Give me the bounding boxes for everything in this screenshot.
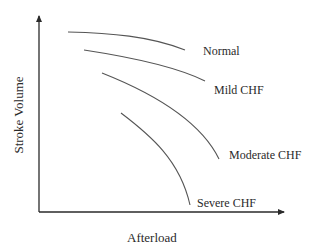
curve-severe-chf [121,113,190,205]
x-axis-label: Afterload [127,230,177,246]
label-severe-chf: Severe CHF [197,196,256,211]
curve-normal [68,32,185,50]
chart-canvas [0,0,316,250]
label-normal: Normal [203,44,240,59]
label-mild-chf: Mild CHF [214,83,264,98]
label-moderate-chf: Moderate CHF [229,148,301,163]
curve-mild-chf [84,50,205,81]
y-axis-label: Stroke Volume [11,70,27,160]
curve-moderate-chf [102,73,219,159]
